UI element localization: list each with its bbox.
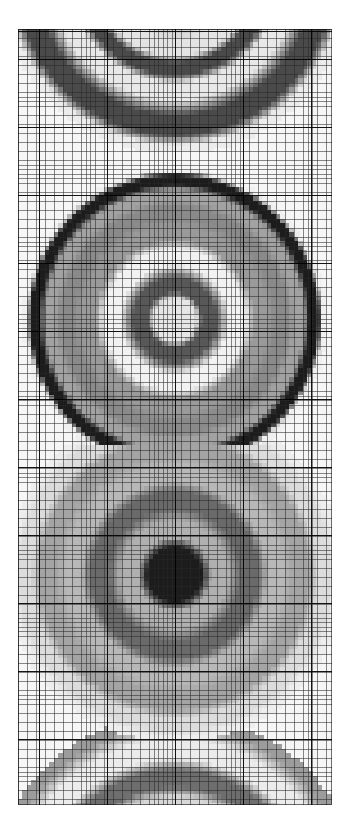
pixelated-grayscale-image <box>18 29 332 805</box>
raster-plot-area <box>18 29 332 805</box>
figure-canvas <box>0 0 350 840</box>
